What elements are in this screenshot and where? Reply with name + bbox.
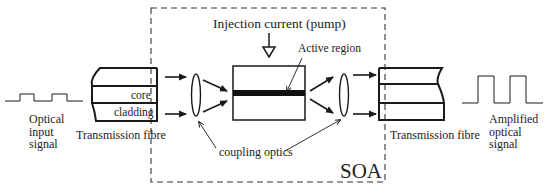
input-coupling-lens	[192, 74, 201, 116]
output-fibre	[379, 68, 444, 120]
output-fibre-label: Transmission fibre	[390, 128, 480, 142]
output-signal-label-line3: signal	[489, 137, 518, 151]
soa-label: SOA	[340, 159, 383, 183]
output-coupling-lens	[340, 74, 349, 116]
output-signal-waveform	[462, 76, 543, 103]
input-signal-label-line1: Optical	[29, 112, 65, 126]
output-signal-label-line1: Amplified	[489, 112, 538, 126]
coupling-optics-label: coupling optics	[219, 145, 293, 159]
pump-arrow	[263, 33, 275, 57]
core-label: core	[131, 89, 151, 101]
soa-diagram: SOA Optical input signal core cladding T…	[0, 0, 545, 192]
active-region-label: Active region	[298, 42, 361, 55]
cladding-label: cladding	[114, 106, 154, 119]
injection-current-label: Injection current (pump)	[213, 16, 346, 31]
active-region	[233, 90, 305, 96]
input-signal-waveform	[5, 94, 83, 101]
input-signal-label-line3: signal	[29, 137, 58, 151]
input-fibre-label: Transmission fibre	[76, 128, 166, 142]
